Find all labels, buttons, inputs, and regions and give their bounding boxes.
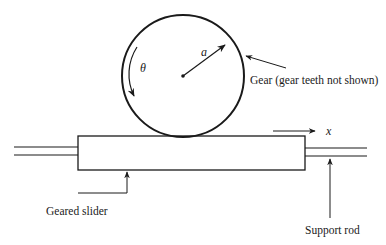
angle-label: θ (140, 61, 146, 75)
gear-label: Gear (gear teeth not shown) (250, 74, 379, 87)
support-rod-right (305, 148, 367, 156)
displacement-label: x (325, 124, 332, 138)
rotation-arrow-icon (129, 47, 137, 96)
slider-callout-arrow-icon (78, 172, 127, 193)
geared-slider (78, 136, 305, 170)
gear-slider-diagram: a θ Gear (gear teeth not shown) x Geared… (0, 0, 386, 245)
gear-callout-arrow-icon (246, 56, 286, 68)
geared-slider-label: Geared slider (46, 205, 108, 217)
support-rod-left (14, 147, 78, 155)
support-rod-label: Support rod (305, 224, 360, 237)
gear (122, 15, 244, 137)
radius-label: a (201, 45, 207, 59)
